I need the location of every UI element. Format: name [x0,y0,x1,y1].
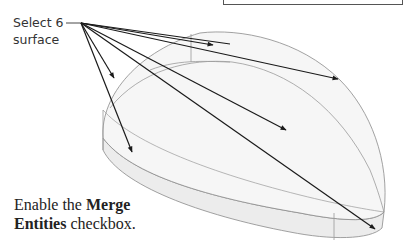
instruction-text: Enable the Merge Entities checkbox. [14,195,136,233]
instruction-prefix: Enable the [14,196,86,213]
instruction-bold-entities: Entities [14,215,66,232]
select-surface-callout: Select 6 surface [13,14,64,48]
callout-line-1: Select 6 [13,14,64,31]
instruction-bold-merge: Merge [86,196,130,213]
instruction-suffix: checkbox. [66,215,135,232]
callout-line-2: surface [13,31,64,48]
